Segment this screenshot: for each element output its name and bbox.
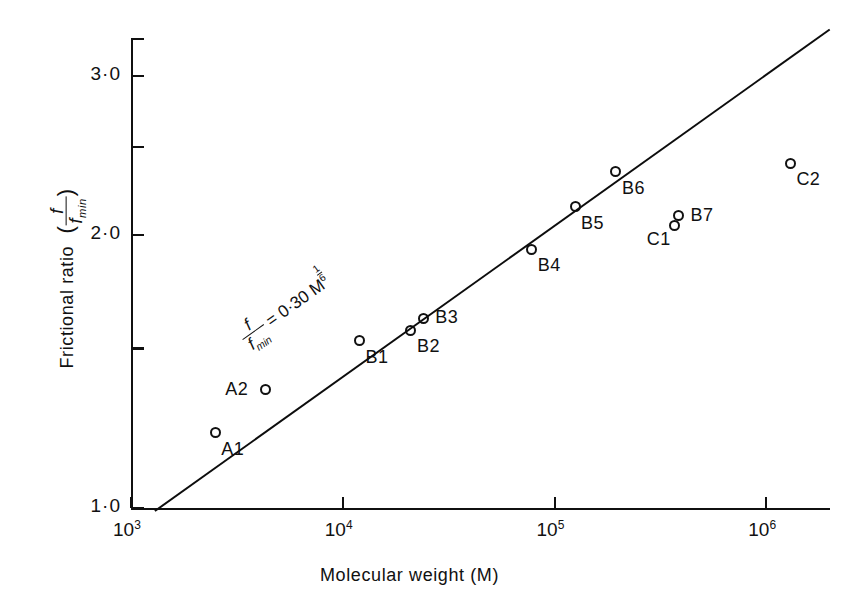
equation-rhs: = 0·30 M [262, 276, 328, 331]
data-point [210, 427, 221, 438]
y-axis-tick [133, 146, 144, 148]
data-point [260, 384, 271, 395]
data-point [669, 220, 680, 231]
x-tick-mantissa: 10 [537, 519, 558, 540]
x-axis-tick-label: 103 [113, 518, 141, 541]
data-point [785, 158, 796, 169]
y-axis-tick [133, 347, 144, 349]
x-tick-exponent: 3 [134, 518, 141, 532]
x-axis-line [131, 508, 830, 510]
x-tick-mantissa: 10 [325, 519, 346, 540]
data-point [610, 166, 621, 177]
data-point-label: B5 [581, 213, 604, 234]
data-point-label: C2 [796, 169, 820, 190]
x-axis-tick [130, 497, 132, 508]
x-tick-exponent: 5 [558, 518, 565, 532]
x-axis-title: Molecular weight (M) [320, 565, 499, 586]
x-tick-mantissa: 10 [113, 519, 134, 540]
y-axis-ratio-denominator-letter: f [66, 218, 86, 224]
x-axis-tick [765, 497, 767, 508]
y-axis-tick [133, 75, 144, 77]
x-axis-title-text: Molecular weight (M) [320, 565, 499, 585]
x-axis-tick [554, 497, 556, 508]
x-axis-tick-label: 104 [325, 518, 353, 541]
x-axis-tick [342, 497, 344, 508]
data-point-label: A2 [225, 379, 248, 400]
x-axis-tick-label: 106 [748, 518, 776, 541]
y-axis-ratio-numerator: f [48, 196, 66, 225]
y-axis-ratio-denominator: fmin [66, 196, 89, 225]
y-axis-title: Frictional ratio (ffmin) [48, 98, 89, 458]
data-point-label: C1 [647, 229, 671, 250]
fit-equation-annotation: f fmin = 0·30 M16 [231, 264, 339, 357]
y-axis-tick [133, 507, 144, 509]
fit-line [154, 29, 830, 513]
y-axis-title-text: Frictional ratio [57, 246, 77, 369]
data-point-label: B2 [417, 336, 440, 357]
data-point-label: B3 [435, 307, 458, 328]
y-axis-tick-label: 3·0 [51, 63, 121, 85]
y-axis-line [131, 38, 133, 510]
chart-figure: 1·02·03·0103104105106 A1A2B1B2B3B4B5B6B7… [0, 0, 847, 606]
data-point [354, 335, 365, 346]
y-axis-tick [133, 234, 144, 236]
x-tick-mantissa: 10 [748, 519, 769, 540]
data-point-label: B6 [622, 178, 645, 199]
x-tick-exponent: 4 [346, 518, 353, 532]
x-tick-exponent: 6 [769, 518, 776, 532]
y-axis-ratio-fraction: ffmin [48, 196, 89, 225]
x-axis-tick-label: 105 [537, 518, 565, 541]
y-axis-top-cap [133, 38, 144, 40]
y-axis-tick-label: 1·0 [51, 495, 121, 517]
data-point-label: B7 [690, 205, 713, 226]
y-axis-ratio-denominator-subscript: min [76, 198, 88, 218]
data-point-label: B4 [538, 255, 561, 276]
